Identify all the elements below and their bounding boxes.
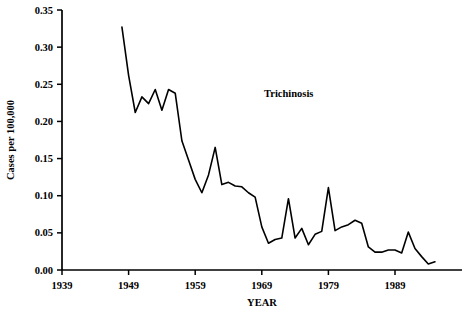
y-tick-label: 0.05 [35, 227, 53, 238]
y-tick-label: 0.25 [35, 79, 53, 90]
y-tick-label: 0.35 [35, 5, 53, 16]
y-tick-label: 0.30 [35, 42, 53, 53]
x-tick-label: 1939 [52, 280, 73, 291]
y-tick-label: 0.10 [35, 190, 53, 201]
x-tick-label: 1949 [118, 280, 139, 291]
y-tick-label: 0.00 [35, 265, 53, 276]
data-series-line [122, 27, 435, 264]
trichinosis-line-chart: 0.000.050.100.150.200.250.300.35 1939194… [0, 0, 468, 323]
chart-figure: 0.000.050.100.150.200.250.300.35 1939194… [0, 0, 468, 323]
y-tick-label: 0.15 [35, 153, 53, 164]
x-axis-ticks: 193919491959196919791989 [52, 270, 406, 291]
x-tick-label: 1969 [251, 280, 272, 291]
x-tick-label: 1959 [185, 280, 206, 291]
y-axis-ticks: 0.000.050.100.150.200.250.300.35 [35, 5, 62, 276]
x-tick-label: 1989 [385, 280, 406, 291]
series-annotation-label: Trichinosis [264, 88, 313, 99]
x-tick-label: 1979 [318, 280, 339, 291]
y-tick-label: 0.20 [35, 116, 53, 127]
x-axis-title: YEAR [247, 297, 277, 308]
y-axis-title: Cases per 100,000 [5, 100, 16, 180]
